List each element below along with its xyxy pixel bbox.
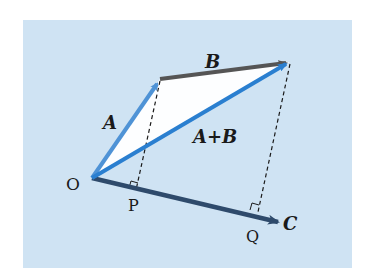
projection-line-ab xyxy=(258,64,290,212)
vector-c xyxy=(92,178,278,222)
vector-projection-diagram: O P Q A B A+B C xyxy=(0,0,368,279)
label-a-plus-b: A+B xyxy=(191,126,237,147)
label-b: B xyxy=(204,51,220,72)
label-o: O xyxy=(66,174,80,194)
label-q: Q xyxy=(246,227,259,246)
label-c: C xyxy=(283,213,298,234)
label-p: P xyxy=(128,196,139,215)
label-a: A xyxy=(101,112,117,133)
right-angle-marker-q xyxy=(250,203,259,210)
